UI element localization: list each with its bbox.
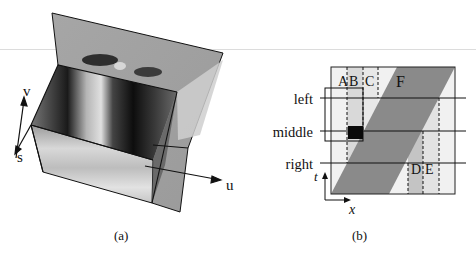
figure: v s u (a) xyxy=(0,0,476,253)
axis-label-t: t xyxy=(314,170,318,183)
row-label-left: left xyxy=(253,92,313,107)
row-label-middle: middle xyxy=(253,125,313,140)
arrowhead-t-icon xyxy=(322,172,328,179)
region-label-E: E xyxy=(425,163,434,177)
panel-b-diagram xyxy=(0,0,476,253)
region-label-D: D xyxy=(411,163,421,177)
region-label-B: B xyxy=(349,75,358,89)
region-label-F: F xyxy=(396,74,405,90)
axis-label-x: x xyxy=(349,203,355,217)
black-square xyxy=(348,126,363,139)
row-label-right: right xyxy=(253,157,313,172)
caption-b: (b) xyxy=(352,229,367,242)
region-label-A: A xyxy=(338,75,348,89)
region-label-C: C xyxy=(365,75,374,89)
